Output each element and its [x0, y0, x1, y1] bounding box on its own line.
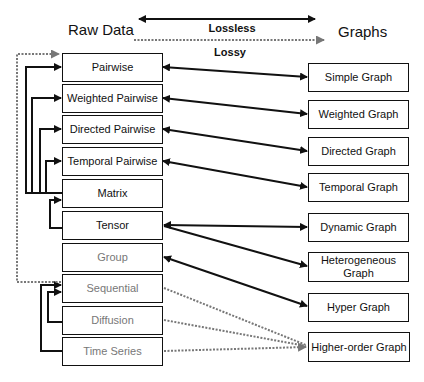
raw-diffusion: Diffusion [62, 306, 163, 335]
graph-simple: Simple Graph [308, 63, 409, 92]
lossy-sequential-higher [164, 288, 306, 345]
raw-sequential: Sequential [62, 274, 163, 303]
arrow-pairwise-simple [163, 67, 307, 77]
graph-heterogeneous: Heterogeneous Graph [308, 252, 409, 282]
raw-matrix: Matrix [62, 179, 163, 208]
raw-directed-pairwise: Directed Pairwise [62, 115, 163, 144]
graph-dynamic: Dynamic Graph [308, 213, 409, 242]
arrow-group-hyper [164, 257, 307, 306]
bracket-timeseries-sequential [41, 285, 62, 351]
raw-group: Group [62, 243, 163, 272]
graph-hyper: Hyper Graph [308, 293, 409, 322]
raw-data-heading: Raw Data [68, 21, 134, 38]
graph-weighted: Weighted Graph [308, 100, 409, 129]
arrow-directed [163, 129, 307, 151]
raw-pairwise: Pairwise [62, 53, 163, 82]
graph-directed: Directed Graph [308, 137, 409, 166]
graph-higher-order: Higher-order Graph [308, 332, 410, 362]
arrow-tensor-dynamic [164, 225, 307, 227]
bracket-tensor-matrix [50, 200, 62, 228]
lossless-label: Lossless [208, 22, 255, 34]
lossy-label: Lossy [214, 46, 246, 58]
arrow-tensor-heterogeneous [164, 226, 307, 266]
arrow-temporal [163, 161, 307, 187]
lossy-diffusion-higher [164, 320, 306, 346]
graphs-heading: Graphs [338, 23, 387, 40]
raw-weighted-pairwise: Weighted Pairwise [62, 84, 163, 113]
bracket-diffusion-sequential [48, 292, 62, 322]
graph-temporal: Temporal Graph [308, 173, 409, 202]
bracket-matrix-temporal [46, 161, 61, 193]
raw-tensor: Tensor [62, 211, 163, 240]
lossy-timeseries-higher [164, 347, 306, 351]
raw-time-series: Time Series [62, 337, 163, 366]
arrow-weighted [163, 98, 307, 114]
raw-temporal-pairwise: Temporal Pairwise [62, 147, 163, 176]
